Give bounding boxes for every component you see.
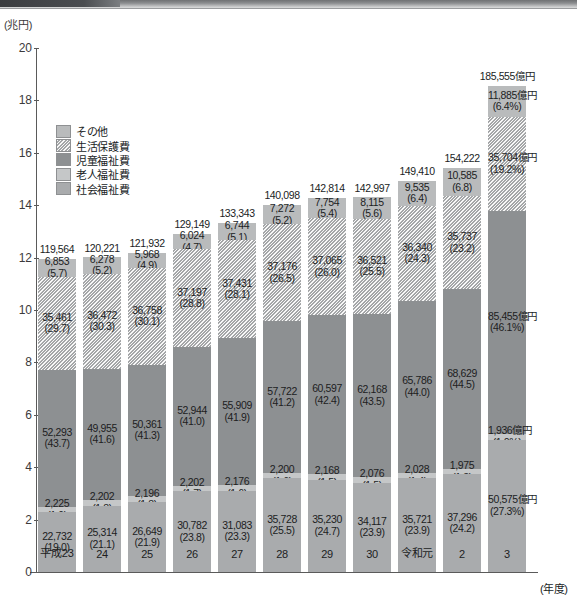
segment-percent: (19.2%) bbox=[490, 163, 524, 175]
stacked-bar-chart: 20181614121086420 119,5646,853(5.7)35,46… bbox=[0, 0, 577, 608]
bar-segment: 26,649(21.9) bbox=[128, 502, 166, 572]
segment-percent: (23.9) bbox=[359, 526, 384, 538]
segment-percent: (30.3) bbox=[89, 320, 114, 332]
segment-value: 7,754 bbox=[315, 196, 339, 208]
segment-percent: (43.5) bbox=[359, 395, 384, 407]
segment-value: 2,028 bbox=[405, 463, 429, 475]
legend-item-label: 社会福祉費 bbox=[76, 181, 130, 197]
segment-value: 30,782 bbox=[177, 519, 207, 531]
bar-segment: 7,754(5.4) bbox=[308, 198, 346, 218]
segment-value: 9,535 bbox=[405, 181, 429, 193]
segment-percent: (25.5) bbox=[269, 524, 294, 536]
bar-column: 120,2216,278(5.2)36,472(30.3)49,955(41.6… bbox=[83, 257, 121, 572]
y-axis-tick-label: 16 bbox=[6, 146, 32, 160]
bar-segment: 65,786(44.0) bbox=[398, 301, 436, 473]
bar-segment-label: 50,575億円(27.3%) bbox=[488, 494, 526, 517]
y-axis-tick-label: 4 bbox=[6, 460, 32, 474]
bar-segment: 37,176(26.5) bbox=[263, 224, 301, 321]
bar-segment-label: 62,168(43.5) bbox=[353, 384, 391, 407]
bar-segment: 36,340(24.3) bbox=[398, 206, 436, 301]
bar-column: 140,0987,272(5.2)37,176(26.5)57,722(41.2… bbox=[263, 205, 301, 572]
bar-segment-label: 52,293(43.7) bbox=[38, 427, 76, 450]
chart-legend: その他生活保護費児童福祉費老人福祉費社会福祉費 bbox=[56, 124, 130, 196]
segment-value: 37,431 bbox=[222, 277, 252, 289]
bar-segment-label: 36,758(30.1) bbox=[128, 305, 166, 328]
legend-swatch-seikatsuhogo bbox=[56, 139, 71, 152]
bar-segment: 36,521(25.5) bbox=[353, 219, 391, 315]
segment-percent: (41.9) bbox=[224, 411, 249, 423]
legend-swatch-shakaifukushi bbox=[56, 182, 71, 195]
bar-segment-label: 35,461(29.7) bbox=[38, 312, 76, 335]
bar-segment-label: 34,117(23.9) bbox=[353, 516, 391, 539]
segment-value: 6,278 bbox=[90, 253, 114, 265]
segment-value: 68,629 bbox=[447, 367, 477, 379]
segment-value: 6,744 bbox=[225, 219, 249, 231]
bar-segment-label: 68,629(44.5) bbox=[443, 368, 481, 391]
segment-value: 50,575億円 bbox=[488, 493, 537, 505]
segment-value: 10,585 bbox=[447, 169, 477, 181]
segment-value: 36,758 bbox=[132, 304, 162, 316]
bar-segment-label: 35,721(23.9) bbox=[398, 514, 436, 537]
segment-value: 35,461 bbox=[42, 311, 72, 323]
segment-value: 6,024 bbox=[180, 229, 204, 241]
x-axis-unit-label: (年度) bbox=[540, 580, 577, 596]
segment-value: 35,721 bbox=[402, 513, 432, 525]
segment-value: 37,065 bbox=[312, 254, 342, 266]
segment-percent: (41.6) bbox=[89, 433, 114, 445]
bar-segment: 6,024(4.7) bbox=[173, 234, 211, 250]
y-axis-tick-label: 20 bbox=[6, 41, 32, 55]
y-axis-tick-label: 8 bbox=[6, 355, 32, 369]
bar-segment-label: 35,704億円(19.2%) bbox=[488, 152, 526, 175]
segment-value: 36,340 bbox=[402, 241, 432, 253]
bar-segment: 62,168(43.5) bbox=[353, 314, 391, 477]
bar-segment-label: 55,909(41.9) bbox=[218, 400, 256, 423]
bar-segment-label: 26,649(21.9) bbox=[128, 526, 166, 549]
x-axis-tick-label: 3 bbox=[479, 548, 535, 560]
segment-value: 36,472 bbox=[87, 309, 117, 321]
bar-total-label: 149,410 bbox=[389, 166, 445, 178]
segment-percent: (41.3) bbox=[134, 429, 159, 441]
legend-swatch-rojinfukushi bbox=[56, 168, 71, 181]
bar-segment: 6,278(5.2) bbox=[83, 257, 121, 273]
bar-segment: 35,461(29.7) bbox=[38, 277, 76, 370]
bar-column: 142,9978,115(5.6)36,521(25.5)62,168(43.5… bbox=[353, 197, 391, 572]
bar-segment-label: 52,944(41.0) bbox=[173, 405, 211, 428]
segment-percent: (24.3) bbox=[404, 252, 429, 264]
segment-value: 35,704億円 bbox=[488, 151, 537, 163]
y-axis-tick-mark bbox=[34, 48, 39, 49]
bar-segment: 35,704億円(19.2%) bbox=[488, 117, 526, 211]
segment-percent: (23.9) bbox=[404, 524, 429, 536]
segment-value: 5,968 bbox=[135, 248, 159, 260]
bar-segment: 57,722(41.2) bbox=[263, 321, 301, 472]
segment-percent: (27.3%) bbox=[490, 505, 524, 517]
segment-value: 1,975 bbox=[450, 459, 474, 471]
bar-column: 121,9325,968(4.9)36,758(30.1)50,361(41.3… bbox=[128, 253, 166, 572]
bar-segment: 37,065(26.0) bbox=[308, 218, 346, 315]
bar-total-label: 142,997 bbox=[344, 183, 400, 195]
segment-value: 50,361 bbox=[132, 418, 162, 430]
y-axis-tick-mark bbox=[34, 205, 39, 206]
bar-column: 119,5646,853(5.7)35,461(29.7)52,293(43.7… bbox=[38, 259, 76, 572]
bar-segment-label: 30,782(23.8) bbox=[173, 520, 211, 543]
bar-column: 149,4109,535(6.4)36,340(24.3)65,786(44.0… bbox=[398, 181, 436, 572]
segment-value: 7,272 bbox=[270, 202, 294, 214]
legend-item: 生活保護費 bbox=[56, 138, 130, 152]
bar-segment: 5,968(4.9) bbox=[128, 253, 166, 269]
segment-value: 37,197 bbox=[177, 286, 207, 298]
segment-percent: (43.7) bbox=[44, 437, 69, 449]
bar-segment-label: 9,535(6.4) bbox=[398, 182, 436, 205]
segment-value: 2,202 bbox=[90, 490, 114, 502]
bar-segment: 36,472(30.3) bbox=[83, 274, 121, 370]
segment-value: 35,728 bbox=[267, 513, 297, 525]
segment-value: 2,196 bbox=[135, 487, 159, 499]
segment-percent: (44.0) bbox=[404, 386, 429, 398]
bar-segment: 55,909(41.9) bbox=[218, 338, 256, 484]
bar-segment-label: 7,754(5.4) bbox=[308, 197, 346, 220]
bar-column: 142,8147,754(5.4)37,065(26.0)60,597(42.4… bbox=[308, 198, 346, 572]
bar-segment-label: 37,065(26.0) bbox=[308, 255, 346, 278]
bar-segment: 52,293(43.7) bbox=[38, 370, 76, 507]
segment-percent: (42.4) bbox=[314, 394, 339, 406]
segment-value: 22,732 bbox=[42, 530, 72, 542]
segment-percent: (29.7) bbox=[44, 322, 69, 334]
bar-segment-label: 37,296(24.2) bbox=[443, 512, 481, 535]
